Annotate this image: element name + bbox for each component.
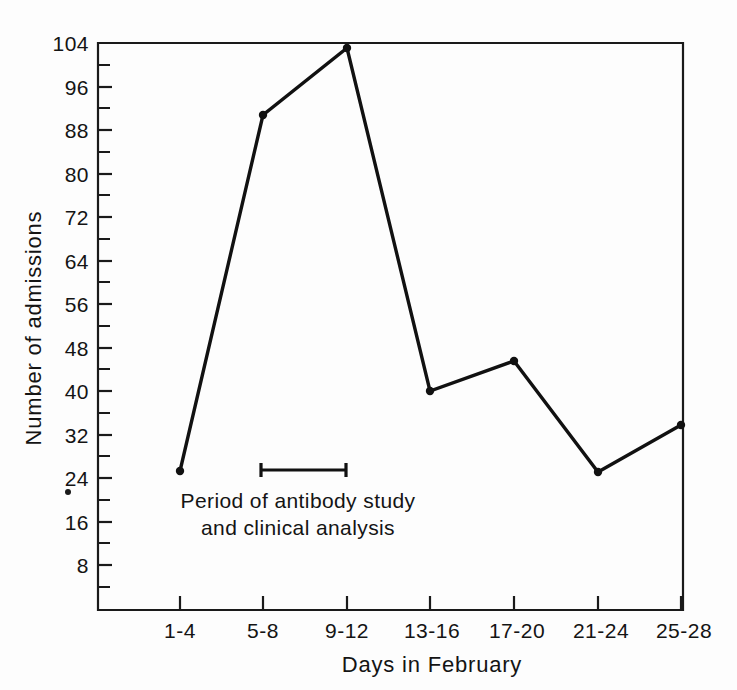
- y-tick-label: 56: [65, 293, 89, 316]
- y-axis-title: Number of admissions: [21, 211, 46, 446]
- data-point: [426, 387, 434, 395]
- x-tick-label: 17-20: [489, 619, 545, 642]
- y-tick-label: 96: [65, 76, 89, 99]
- x-axis-title: Days in February: [342, 652, 522, 677]
- series-line-admissions: [180, 48, 681, 472]
- y-tick-label: 80: [65, 163, 89, 186]
- y-axis-minor-ticks: [98, 65, 110, 587]
- y-tick-label: 24: [65, 467, 89, 490]
- y-tick-label: 32: [65, 424, 89, 447]
- data-point: [677, 421, 685, 429]
- data-point: [510, 357, 518, 365]
- x-tick-label: 1-4: [164, 619, 196, 642]
- data-point: [259, 111, 267, 119]
- y-tick-label: 16: [65, 511, 89, 534]
- y-tick-label: 40: [65, 380, 89, 403]
- data-point: [594, 468, 602, 476]
- y-tick-label: 48: [65, 337, 89, 360]
- x-tick-label: 13-16: [404, 619, 460, 642]
- line-chart-svg: 8 16 24 32 40 48 56 64 72 80 88 96 104: [0, 0, 737, 690]
- x-axis-tick-labels: 1-4 5-8 9-12 13-16 17-20 21-24 25-28: [164, 619, 712, 642]
- x-tick-label: 21-24: [573, 619, 629, 642]
- chart-figure: 8 16 24 32 40 48 56 64 72 80 88 96 104: [0, 0, 737, 690]
- scan-speck: [65, 489, 71, 495]
- x-tick-label: 25-28: [656, 619, 712, 642]
- annotation-line-1: Period of antibody study: [181, 489, 416, 512]
- data-point: [176, 467, 184, 475]
- y-tick-label: 104: [52, 32, 89, 55]
- x-tick-label: 9-12: [325, 619, 369, 642]
- y-tick-label: 8: [77, 554, 89, 577]
- y-axis-tick-labels: 8 16 24 32 40 48 56 64 72 80 88 96 104: [52, 32, 89, 577]
- x-axis-ticks: [180, 596, 681, 610]
- annotation-line-2: and clinical analysis: [201, 516, 395, 539]
- y-tick-label: 64: [65, 250, 89, 273]
- series-markers: [176, 44, 685, 476]
- y-tick-label: 72: [65, 206, 89, 229]
- annotation-range-bracket: [260, 463, 347, 477]
- x-tick-label: 5-8: [247, 619, 279, 642]
- data-point: [343, 44, 351, 52]
- y-tick-label: 88: [65, 119, 89, 142]
